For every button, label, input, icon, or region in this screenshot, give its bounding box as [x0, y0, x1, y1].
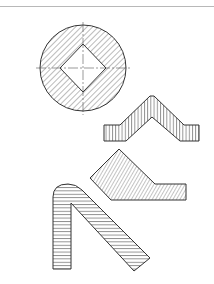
bent-strip-section [104, 96, 199, 141]
round-bar-section [36, 22, 132, 115]
angled-plate-section [90, 149, 186, 200]
section-drawings [0, 0, 214, 284]
